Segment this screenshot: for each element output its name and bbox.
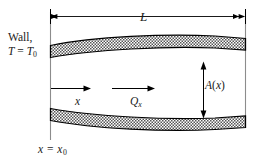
heat-flow-label: Qx — [130, 95, 142, 109]
area-A-symbol: A — [205, 79, 212, 91]
wall-temperature-label: Wall, T = T0 — [8, 31, 37, 59]
origin-position-label: x = x0 — [38, 143, 67, 157]
x-direction-arrow — [51, 86, 91, 92]
heat-flow-x-subscript: x — [138, 100, 141, 109]
wall-T0-subscript: 0 — [33, 50, 37, 59]
origin-equals-sign: = — [44, 143, 58, 155]
length-dimension-arrow — [51, 9, 246, 24]
area-paren-close: ) — [221, 79, 225, 91]
area-label: A(x) — [205, 79, 225, 93]
origin-x0-subscript: 0 — [63, 148, 67, 157]
heat-flow-arrow — [112, 86, 155, 92]
wall-label-line2: T = T0 — [8, 45, 37, 59]
wall-equals-sign: = — [14, 45, 26, 57]
wall-label-line1: Wall, — [8, 31, 37, 45]
length-label: L — [140, 9, 147, 24]
duct-diagram-figure: L Wall, T = T0 x Qx A(x) x = x0 — [0, 0, 263, 164]
bottom-duct-wall — [51, 109, 246, 131]
top-duct-wall — [51, 35, 246, 57]
x-axis-label: x — [75, 95, 80, 109]
